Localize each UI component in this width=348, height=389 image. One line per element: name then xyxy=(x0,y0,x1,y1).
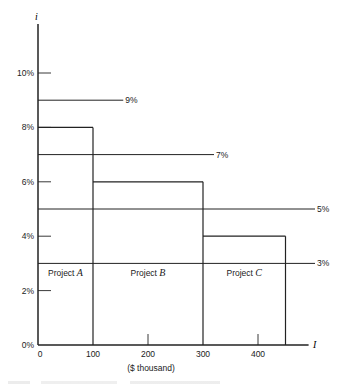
x-axis-label: ($ thousand) xyxy=(127,363,175,373)
y-tick-label: 2% xyxy=(22,286,35,296)
project-letter: B xyxy=(159,267,165,278)
interest-rate-label: 7% xyxy=(216,150,229,160)
y-tick-label: 4% xyxy=(22,231,35,241)
project-label: Project A xyxy=(48,267,84,278)
interest-rate-label: 9% xyxy=(125,95,138,105)
y-tick-label: 6% xyxy=(22,177,35,187)
project-letter: A xyxy=(76,267,84,278)
project-label: Project B xyxy=(131,267,166,278)
investment-schedule-chart: iI0%2%4%6%8%10%0100200300400($ thousand)… xyxy=(0,0,348,389)
project-letter: C xyxy=(255,267,262,278)
x-tick-label: 300 xyxy=(196,349,210,359)
x-tick-label: 0 xyxy=(38,349,43,359)
y-tick-label: 8% xyxy=(22,122,35,132)
x-tick-label: 100 xyxy=(86,349,100,359)
faded-caption xyxy=(8,381,280,384)
x-axis-symbol: I xyxy=(312,339,317,350)
y-axis-symbol: i xyxy=(35,11,38,22)
y-tick-label: 0% xyxy=(22,340,35,350)
interest-rate-label: 5% xyxy=(317,204,330,214)
y-tick-label: 10% xyxy=(17,68,34,78)
interest-rate-label: 3% xyxy=(317,258,330,268)
x-tick-label: 200 xyxy=(141,349,155,359)
x-tick-label: 400 xyxy=(251,349,265,359)
project-label: Project C xyxy=(227,267,263,278)
